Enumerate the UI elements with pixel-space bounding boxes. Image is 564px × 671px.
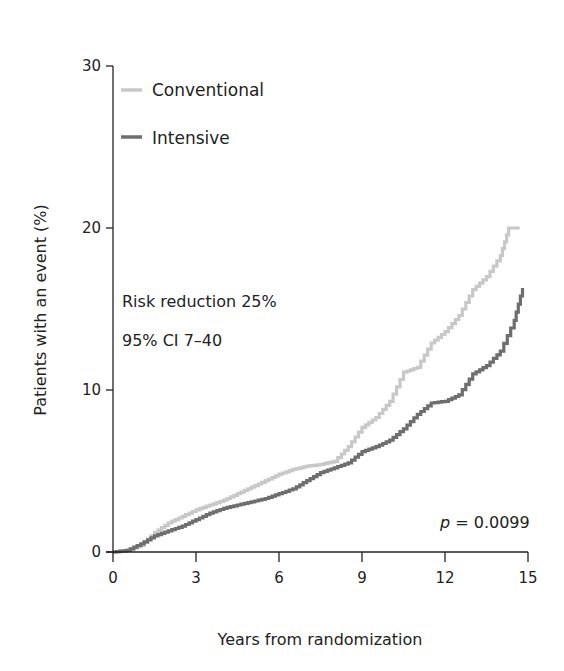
confidence-interval-annotation: 95% CI 7–40 bbox=[122, 331, 222, 350]
x-axis-label: Years from randomization bbox=[217, 630, 423, 649]
legend-label-conventional: Conventional bbox=[152, 80, 264, 100]
x-tick-label: 3 bbox=[191, 569, 201, 587]
series-line-conventional bbox=[113, 228, 520, 552]
x-tick-label: 9 bbox=[357, 569, 367, 587]
legend: Conventional Intensive bbox=[121, 80, 264, 148]
x-tick-label: 15 bbox=[518, 569, 537, 587]
risk-reduction-annotation: Risk reduction 25% bbox=[122, 292, 277, 311]
y-tick-label: 0 bbox=[91, 543, 101, 561]
y-tick-label: 30 bbox=[82, 57, 101, 75]
p-value: = 0.0099 bbox=[450, 513, 530, 532]
x-tick-label: 0 bbox=[108, 569, 118, 587]
x-tick-label: 6 bbox=[274, 569, 284, 587]
x-ticks: 03691215 bbox=[108, 552, 537, 587]
plot-lines bbox=[113, 228, 523, 552]
y-ticks: 0102030 bbox=[82, 57, 113, 561]
y-tick-label: 10 bbox=[82, 381, 101, 399]
y-tick-label: 20 bbox=[82, 219, 101, 237]
p-symbol: p bbox=[439, 513, 450, 532]
legend-label-intensive: Intensive bbox=[152, 128, 230, 148]
y-axis-label: Patients with an event (%) bbox=[31, 204, 50, 416]
x-tick-label: 12 bbox=[435, 569, 454, 587]
kaplan-meier-chart: 0102030 03691215 Conventional Intensive … bbox=[0, 0, 564, 671]
p-value-annotation: p = 0.0099 bbox=[439, 513, 530, 532]
